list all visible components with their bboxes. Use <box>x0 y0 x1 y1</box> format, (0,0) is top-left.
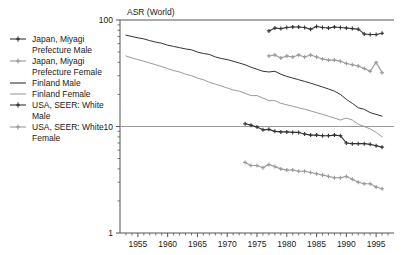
legend-label-cont: Female <box>32 133 61 143</box>
asr-world-line-chart: Japan, MiyagiPrefecture MaleJapan, Miyag… <box>0 0 409 255</box>
y-tick-label: 1 <box>108 228 113 238</box>
x-tick-label: 1985 <box>307 239 326 249</box>
y-tick-label: 10 <box>104 122 114 132</box>
x-tick-label: 1990 <box>337 239 356 249</box>
chart-figure: Japan, MiyagiPrefecture MaleJapan, Miyag… <box>0 0 409 255</box>
legend-label: Finland Male <box>32 78 81 88</box>
x-tick-label: 1995 <box>367 239 386 249</box>
x-tick-label: 1955 <box>128 239 147 249</box>
legend-label-cont: Prefecture Male <box>32 45 92 55</box>
legend-label: USA, SEER: White <box>32 100 104 110</box>
legend-label: Japan, Miyagi <box>32 56 85 66</box>
x-tick-label: 1975 <box>248 239 267 249</box>
legend-label: Finland Female <box>32 89 91 99</box>
y-tick-label: 100 <box>99 15 113 25</box>
legend-label-cont: Prefecture Female <box>32 67 102 77</box>
legend-label: USA, SEER: White <box>32 122 104 132</box>
x-tick-label: 1970 <box>218 239 237 249</box>
x-tick-label: 1980 <box>277 239 296 249</box>
legend-label: Japan, Miyagi <box>32 34 85 44</box>
x-tick-label: 1965 <box>188 239 207 249</box>
chart-title: ASR (World) <box>127 7 175 17</box>
legend-label-cont: Male <box>32 111 51 121</box>
x-tick-label: 1960 <box>158 239 177 249</box>
